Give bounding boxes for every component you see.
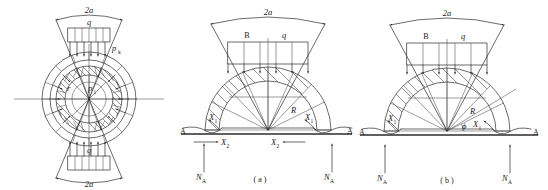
svg-text:p: p [87,83,92,93]
pressure-outer-label: p k [111,43,121,55]
svg-text:2: 2 [277,143,280,149]
technical-figure: 2a q q 2a p k p 1 r [0,0,548,190]
load-label-b: q [461,31,466,41]
caption-b: ( b ) [440,176,454,185]
svg-text:p: p [111,43,116,53]
svg-text:k: k [118,49,121,55]
arch-hatch-a [172,0,356,154]
svg-text:1: 1 [215,118,218,124]
arch-hatch-b [351,0,535,155]
panel-b: 2a B q R ϕ A A X 1 X 1 N A N A ( b ) [351,0,539,185]
svg-text:A: A [202,178,206,184]
span-label-b: 2a [443,8,452,18]
span-label-a: 2a [264,7,273,17]
na-label-left-b: N A [376,173,387,185]
left-span-bottom-label: 2a [85,179,94,189]
x2-label-right-a: X 2 [270,137,280,149]
svg-text:2: 2 [227,143,230,149]
left-span-top-label: 2a [85,5,94,15]
na-label-left-a: N A [195,172,206,184]
svg-text:1: 1 [479,125,482,131]
span-arc-b [390,18,504,25]
span-arc-a [211,17,325,24]
width-label-a: B [244,31,249,40]
panel-left: 2a q q 2a p k p 1 r [14,5,164,189]
radius-label-a: R [290,105,297,115]
na-label-right-a: N A [323,172,334,184]
svg-text:A: A [330,178,334,184]
svg-text:1: 1 [394,119,397,125]
load-label-a: q [282,30,287,40]
x2-label-left-a: X 2 [220,137,230,149]
x1-label-left-a: X 1 [208,112,218,124]
width-label-b: B [423,32,428,41]
arch-segment-lines-b [384,68,516,131]
svg-text:A: A [383,179,387,185]
caption-a: ( a ) [254,175,267,184]
phi-label-b: ϕ [462,121,467,131]
na-label-right-b: N A [501,173,512,185]
inner-radius-label: r [67,83,71,93]
ground-label-right-b: A [533,128,539,137]
svg-text:A: A [508,179,512,185]
svg-text:1: 1 [311,118,314,124]
left-load-top-label: q [87,17,92,27]
ground-label-left-b: A [359,128,365,137]
ground-label-right-a: A [347,127,353,136]
ground-label-left-a: A [180,127,186,136]
x1-label-right-a: X 1 [304,112,314,124]
x1-label-right-b: X 1 [472,119,482,131]
x1-label-left-b: X 1 [387,113,397,125]
x1-arrow-right-b [484,121,495,131]
panel-a: 2a B q R A A X 1 X 1 X 2 X 2 N A N A ( a [172,0,356,184]
diagram-canvas: 2a q q 2a p k p 1 r [0,0,548,190]
radius-label-b: R [469,106,476,116]
svg-text:1: 1 [94,89,97,95]
